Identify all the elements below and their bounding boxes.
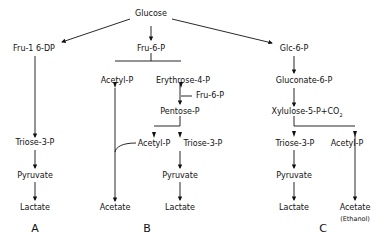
node-c-lactate: Lactate bbox=[279, 203, 309, 213]
node-glucose: Glucose bbox=[135, 9, 167, 19]
node-b-fru-6-p-side: Fru-6-P bbox=[196, 91, 224, 101]
node-c-gluconate-6-p: Gluconate-6-P bbox=[276, 76, 333, 86]
node-a-pyruvate: Pyruvate bbox=[17, 171, 53, 181]
xylulose-text: Xylulose-5-P+CO bbox=[271, 107, 339, 116]
node-c-acetate: Acetate bbox=[340, 203, 371, 213]
node-c-glc-6-p: Glc-6-P bbox=[280, 44, 309, 54]
node-c-acetyl-p: Acetyl-P bbox=[331, 139, 363, 149]
pathway-label-c: C bbox=[319, 223, 327, 235]
node-b-triose-3-p: Triose-3-P bbox=[184, 139, 223, 149]
node-a-fru-16-dp: Fru-1 6-DP bbox=[13, 44, 55, 54]
pathway-label-a: A bbox=[31, 223, 39, 235]
node-b-pentose-p: Pentose-P bbox=[160, 107, 199, 117]
co2-subscript: 2 bbox=[339, 112, 342, 118]
node-a-lactate: Lactate bbox=[20, 203, 50, 213]
node-b-erythrose-4-p: Erythrose-4-P bbox=[156, 76, 210, 86]
node-c-ethanol: (Ethanol) bbox=[340, 214, 370, 224]
node-b-acetate: Acetate bbox=[100, 203, 131, 213]
node-b-fru-6-p: Fru-6-P bbox=[137, 44, 165, 54]
node-b-lactate: Lactate bbox=[165, 203, 195, 213]
pathway-label-b: B bbox=[143, 223, 151, 235]
node-b-acetyl-p-2: Acetyl-P bbox=[138, 139, 170, 149]
node-a-triose-3-p: Triose-3-P bbox=[16, 138, 55, 148]
node-c-triose-3-p: Triose-3-P bbox=[276, 139, 315, 149]
node-c-xylulose-5-p-co2: Xylulose-5-P+CO2 bbox=[271, 107, 342, 120]
node-b-acetyl-p-1: Acetyl-P bbox=[101, 76, 133, 86]
node-b-pyruvate: Pyruvate bbox=[162, 171, 198, 181]
node-c-pyruvate: Pyruvate bbox=[276, 171, 312, 181]
